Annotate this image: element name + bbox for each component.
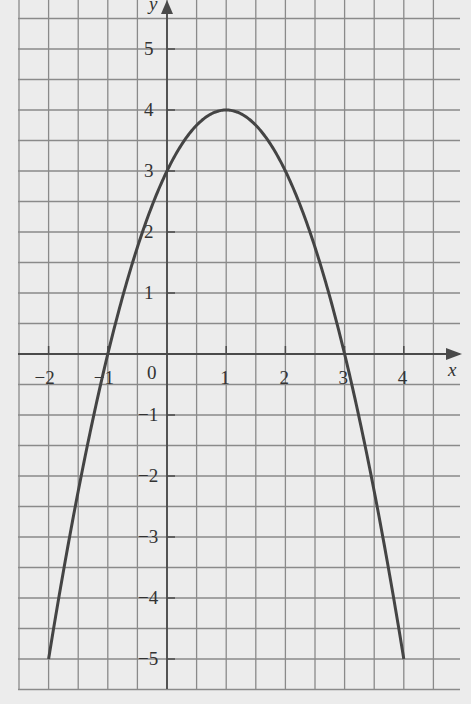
svg-text:−2: −2 [138, 465, 158, 486]
svg-text:−4: −4 [138, 587, 159, 608]
x-axis-label: x [447, 359, 457, 380]
svg-text:−3: −3 [138, 526, 158, 547]
svg-text:4: 4 [144, 99, 154, 120]
axes [18, 0, 462, 689]
svg-text:4: 4 [398, 367, 408, 388]
svg-text:1: 1 [144, 282, 154, 303]
svg-text:5: 5 [144, 38, 154, 59]
svg-text:1: 1 [220, 367, 230, 388]
grid-lines [18, 0, 460, 690]
svg-text:3: 3 [144, 160, 154, 181]
svg-text:−2: −2 [35, 367, 55, 388]
svg-text:2: 2 [279, 367, 289, 388]
svg-text:−5: −5 [138, 648, 158, 669]
y-axis-label: y [147, 0, 158, 14]
svg-text:−1: −1 [138, 404, 158, 425]
parabola-chart: −2−112340−5−4−3−2−112345 x y [0, 0, 471, 704]
svg-text:3: 3 [339, 367, 349, 388]
svg-text:0: 0 [147, 362, 157, 383]
